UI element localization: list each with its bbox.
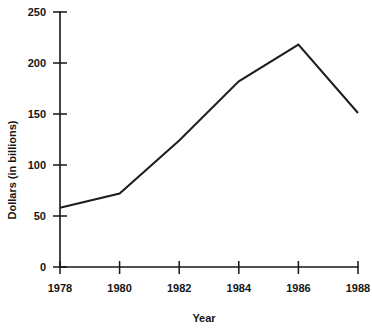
x-tick-label-1986: 1986: [286, 282, 310, 294]
data-series-line: [60, 45, 358, 208]
y-tick-label-250: 250: [28, 6, 46, 18]
x-axis-title: Year: [192, 312, 216, 324]
x-tick-label-1984: 1984: [227, 282, 252, 294]
x-tick-label-1980: 1980: [107, 282, 131, 294]
chart-canvas: 250 200 150 100 50 0 1978 1980 1982 1984…: [0, 0, 372, 328]
y-tick-label-150: 150: [28, 108, 46, 120]
y-tick-label-0: 0: [40, 261, 46, 273]
x-tick-label-1988: 1988: [346, 282, 370, 294]
x-tick-label-1982: 1982: [167, 282, 191, 294]
x-tick-label-1978: 1978: [48, 282, 72, 294]
y-tick-label-200: 200: [28, 57, 46, 69]
y-tick-label-50: 50: [34, 210, 46, 222]
line-chart: 250 200 150 100 50 0 1978 1980 1982 1984…: [0, 0, 372, 328]
y-tick-label-100: 100: [28, 159, 46, 171]
y-axis-title: Dollars (in billions): [6, 120, 18, 219]
